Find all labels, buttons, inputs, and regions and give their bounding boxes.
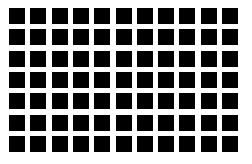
- grid-row: [0, 115, 252, 131]
- grid-cell-square: [201, 93, 217, 109]
- grid-cell-square: [52, 136, 68, 152]
- grid-cell-square: [73, 136, 89, 152]
- grid-cell-square: [201, 115, 217, 131]
- grid-cell-square: [9, 115, 25, 131]
- grid-cell-square: [94, 93, 110, 109]
- grid-cell-square: [158, 136, 174, 152]
- grid-cell-square: [73, 8, 89, 24]
- grid-cell-square: [158, 51, 174, 67]
- grid-cell-square: [30, 29, 46, 45]
- grid-cell-square: [222, 8, 238, 24]
- grid-cell-square: [94, 51, 110, 67]
- grid-row: [0, 93, 252, 109]
- grid-cell-square: [30, 136, 46, 152]
- grid-row: [0, 136, 252, 152]
- grid-cell-square: [30, 115, 46, 131]
- grid-cell-square: [116, 136, 132, 152]
- grid-cell-square: [158, 8, 174, 24]
- grid-cell-square: [30, 93, 46, 109]
- grid-cell-square: [201, 72, 217, 88]
- grid-cell-square: [9, 8, 25, 24]
- grid-cell-square: [9, 72, 25, 88]
- grid-cell-square: [222, 115, 238, 131]
- grid-cell-square: [222, 136, 238, 152]
- grid-cell-square: [222, 29, 238, 45]
- grid-cell-square: [201, 8, 217, 24]
- grid-cell-square: [137, 115, 153, 131]
- grid-cell-square: [201, 136, 217, 152]
- grid-cell-square: [137, 136, 153, 152]
- grid-cell-square: [9, 93, 25, 109]
- grid-cell-square: [137, 93, 153, 109]
- grid-cell-square: [73, 29, 89, 45]
- grid-row: [0, 51, 252, 67]
- grid-cell-square: [137, 29, 153, 45]
- grid-cell-square: [73, 93, 89, 109]
- grid-cell-square: [73, 72, 89, 88]
- grid-cell-square: [179, 72, 195, 88]
- grid-cell-square: [116, 8, 132, 24]
- hermann-grid-figure: [0, 0, 252, 164]
- grid-cell-square: [52, 115, 68, 131]
- grid-surface: [0, 0, 252, 164]
- grid-cell-square: [201, 51, 217, 67]
- grid-cell-square: [179, 136, 195, 152]
- grid-cell-square: [179, 115, 195, 131]
- grid-cell-square: [94, 8, 110, 24]
- grid-cell-square: [137, 51, 153, 67]
- grid-cell-square: [116, 51, 132, 67]
- grid-cell-square: [179, 51, 195, 67]
- grid-cell-square: [52, 51, 68, 67]
- grid-row: [0, 72, 252, 88]
- grid-row: [0, 8, 252, 24]
- grid-cell-square: [137, 72, 153, 88]
- grid-cell-square: [9, 136, 25, 152]
- grid-cell-square: [116, 72, 132, 88]
- grid-cell-square: [116, 29, 132, 45]
- grid-cell-square: [222, 51, 238, 67]
- grid-cell-square: [94, 29, 110, 45]
- grid-cell-square: [94, 136, 110, 152]
- grid-cell-square: [30, 8, 46, 24]
- grid-cell-square: [179, 29, 195, 45]
- grid-cell-square: [116, 115, 132, 131]
- grid-cell-square: [73, 115, 89, 131]
- grid-cell-square: [30, 51, 46, 67]
- grid-cell-square: [30, 72, 46, 88]
- grid-cell-square: [52, 29, 68, 45]
- grid-cell-square: [158, 93, 174, 109]
- grid-cell-square: [52, 8, 68, 24]
- grid-cell-square: [201, 29, 217, 45]
- grid-cell-square: [116, 93, 132, 109]
- grid-cell-square: [137, 8, 153, 24]
- grid-cell-square: [179, 8, 195, 24]
- grid-cell-square: [158, 72, 174, 88]
- grid-cell-square: [158, 29, 174, 45]
- grid-cell-square: [9, 51, 25, 67]
- grid-cell-square: [222, 72, 238, 88]
- grid-cell-square: [52, 93, 68, 109]
- grid-cell-square: [52, 72, 68, 88]
- grid-cell-square: [158, 115, 174, 131]
- grid-cell-square: [222, 93, 238, 109]
- grid-row: [0, 29, 252, 45]
- grid-cell-square: [179, 93, 195, 109]
- grid-cell-square: [94, 72, 110, 88]
- grid-cell-square: [9, 29, 25, 45]
- grid-cell-square: [73, 51, 89, 67]
- grid-cell-square: [94, 115, 110, 131]
